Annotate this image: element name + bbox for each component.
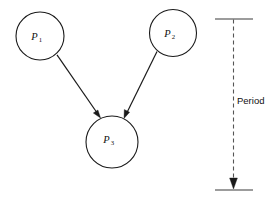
node-p3-label: P [102,134,110,145]
edge-p2-to-p3-arrowhead [124,110,130,119]
edge-p2-to-p3 [124,52,157,119]
precedence-diagram: P 1 P 2 P 3 Period [0,0,280,206]
node-p3-subscript: 3 [111,139,115,146]
node-p1-label: P [30,31,38,42]
edge-p1-to-p3-line [57,55,98,114]
node-p3[interactable]: P 3 [86,116,138,168]
node-p1[interactable]: P 1 [16,12,64,60]
edge-p1-to-p3-arrowhead [93,110,100,118]
period-label: Period [237,95,264,106]
diagram-canvas: P 1 P 2 P 3 Period [0,0,280,206]
node-p2[interactable]: P 2 [150,10,197,57]
node-p2-label: P [163,28,171,39]
node-p2-subscript: 2 [172,33,176,40]
edge-p2-to-p3-line [127,52,158,114]
edge-p1-to-p3 [57,55,101,118]
node-p1-subscript: 1 [39,36,42,43]
period-arrowhead-icon [230,178,238,189]
period-annotation: Period [215,19,264,190]
